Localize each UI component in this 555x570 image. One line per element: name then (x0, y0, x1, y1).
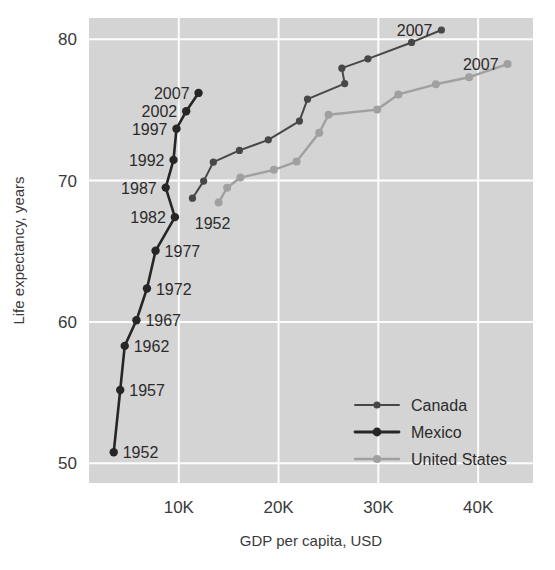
legend-marker-mexico (373, 428, 382, 437)
data-point-canada-1982[interactable] (304, 96, 311, 103)
data-point-united-states-1992[interactable] (394, 90, 402, 98)
legend-label-canada[interactable]: Canada (411, 397, 467, 414)
point-label-mexico-1972: 1972 (156, 281, 192, 298)
data-point-united-states-1972[interactable] (293, 158, 301, 166)
y-axis-title: Life expectancy, years (10, 176, 27, 324)
data-point-united-states-1957[interactable] (223, 184, 231, 192)
x-tick-label: 40K (463, 498, 494, 517)
x-tick-label: 30K (363, 498, 394, 517)
point-label-mexico-1987: 1987 (121, 180, 157, 197)
data-point-canada-1967[interactable] (236, 147, 243, 154)
legend-label-united-states[interactable]: United States (411, 451, 507, 468)
point-label-mexico-1962: 1962 (134, 338, 170, 355)
point-label-united-states-1952: 1952 (195, 215, 231, 232)
data-point-mexico-2002[interactable] (182, 107, 190, 115)
data-point-mexico-1967[interactable] (132, 316, 140, 324)
point-label-mexico-2002: 2002 (142, 103, 178, 120)
data-point-united-states-1997[interactable] (432, 80, 440, 88)
data-point-canada-1952[interactable] (189, 195, 196, 202)
data-point-mexico-1997[interactable] (172, 124, 180, 132)
x-tick-label: 10K (164, 498, 195, 517)
data-point-canada-2007[interactable] (438, 26, 445, 33)
gdp-life-expectancy-scatter-line-chart: 10K20K30K40K50607080GDP per capita, USDL… (0, 0, 555, 570)
data-point-united-states-1962[interactable] (236, 174, 244, 182)
point-label-mexico-1997: 1997 (132, 121, 168, 138)
data-point-united-states-2002[interactable] (465, 73, 473, 81)
data-point-united-states-1977[interactable] (315, 129, 323, 137)
data-point-mexico-1972[interactable] (143, 284, 151, 292)
data-point-mexico-1977[interactable] (151, 247, 159, 255)
data-point-mexico-1992[interactable] (169, 156, 177, 164)
legend-label-mexico[interactable]: Mexico (411, 424, 462, 441)
data-point-mexico-1982[interactable] (171, 213, 179, 221)
data-point-canada-1957[interactable] (200, 178, 207, 185)
point-label-united-states-2007: 2007 (463, 56, 499, 73)
data-point-united-states-1987[interactable] (373, 106, 381, 114)
data-point-mexico-1957[interactable] (116, 386, 124, 394)
y-tick-label: 70 (58, 172, 77, 191)
point-label-canada-2007: 2007 (397, 22, 433, 39)
data-point-mexico-2007[interactable] (194, 89, 202, 97)
data-point-united-states-1967[interactable] (270, 166, 278, 174)
legend-marker-united-states (373, 455, 381, 463)
data-point-united-states-1952[interactable] (215, 199, 223, 207)
point-label-mexico-2007: 2007 (154, 85, 190, 102)
data-point-canada-1987[interactable] (341, 80, 348, 87)
point-label-mexico-1977: 1977 (165, 243, 201, 260)
point-label-mexico-1982: 1982 (130, 209, 166, 226)
point-label-mexico-1967: 1967 (145, 312, 181, 329)
chart-container: 10K20K30K40K50607080GDP per capita, USDL… (0, 0, 555, 570)
data-point-canada-1977[interactable] (296, 117, 303, 124)
point-label-mexico-1992: 1992 (129, 152, 165, 169)
data-point-canada-1997[interactable] (364, 55, 371, 62)
data-point-mexico-1952[interactable] (110, 448, 118, 456)
data-point-canada-1962[interactable] (210, 159, 217, 166)
data-point-united-states-2007[interactable] (504, 60, 512, 68)
x-tick-label: 20K (263, 498, 294, 517)
point-label-mexico-1952: 1952 (123, 444, 159, 461)
x-axis-title: GDP per capita, USD (240, 532, 382, 549)
y-tick-label: 60 (58, 313, 77, 332)
legend-marker-canada (373, 401, 380, 408)
point-label-mexico-1957: 1957 (129, 382, 165, 399)
data-point-canada-1992[interactable] (338, 65, 345, 72)
data-point-united-states-1982[interactable] (325, 111, 333, 119)
y-tick-label: 50 (58, 454, 77, 473)
data-point-mexico-1987[interactable] (162, 183, 170, 191)
y-tick-label: 80 (58, 30, 77, 49)
data-point-canada-1972[interactable] (265, 136, 272, 143)
data-point-canada-2002[interactable] (408, 39, 415, 46)
data-point-mexico-1962[interactable] (121, 342, 129, 350)
